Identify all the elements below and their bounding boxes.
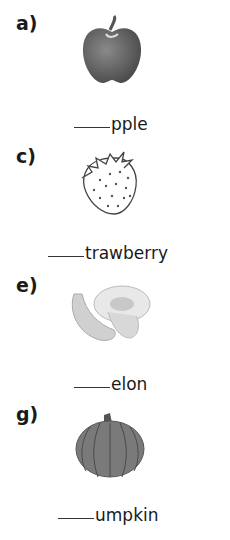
strawberry-icon — [80, 150, 142, 216]
word-ending: elon — [111, 374, 147, 394]
answer-blank[interactable] — [74, 387, 110, 388]
item-label: e) — [16, 274, 38, 296]
worksheet-item-strawberry: c) trawberry — [0, 140, 230, 270]
worksheet-item-pumpkin: g) umpkin — [0, 395, 230, 540]
worksheet-item-melon: e) elon — [0, 270, 230, 395]
apple-icon — [80, 14, 144, 86]
word-ending: pple — [111, 114, 148, 134]
answer-blank[interactable] — [48, 256, 84, 257]
melon-icon — [68, 282, 152, 344]
item-label: c) — [16, 145, 36, 167]
pumpkin-icon — [74, 411, 146, 479]
answer-blank[interactable] — [58, 518, 94, 519]
item-label: a) — [16, 12, 38, 34]
fill-in-word: elon — [74, 374, 147, 394]
word-ending: umpkin — [95, 505, 158, 525]
word-ending: trawberry — [85, 243, 168, 263]
fill-in-word: trawberry — [48, 243, 168, 263]
worksheet-item-apple: a) pple — [0, 0, 230, 140]
answer-blank[interactable] — [74, 127, 110, 128]
item-label: g) — [16, 403, 38, 425]
fill-in-word: umpkin — [58, 505, 158, 525]
fill-in-word: pple — [74, 114, 148, 134]
